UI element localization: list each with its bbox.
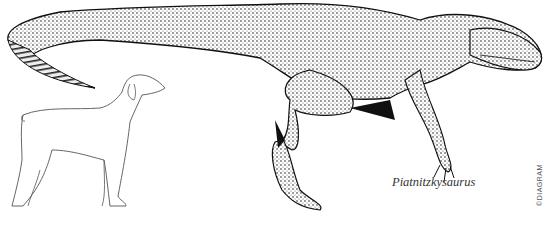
species-caption: Piatnitzkysaurus — [392, 175, 475, 190]
copyright-notice: ©DIAGRAM — [536, 164, 543, 206]
dog-figure — [12, 75, 165, 206]
dinosaur-arm — [405, 70, 451, 172]
dog-ear — [128, 84, 136, 100]
dinosaur-lower-leg — [272, 140, 321, 210]
dinosaur-tail-tip — [8, 40, 95, 88]
